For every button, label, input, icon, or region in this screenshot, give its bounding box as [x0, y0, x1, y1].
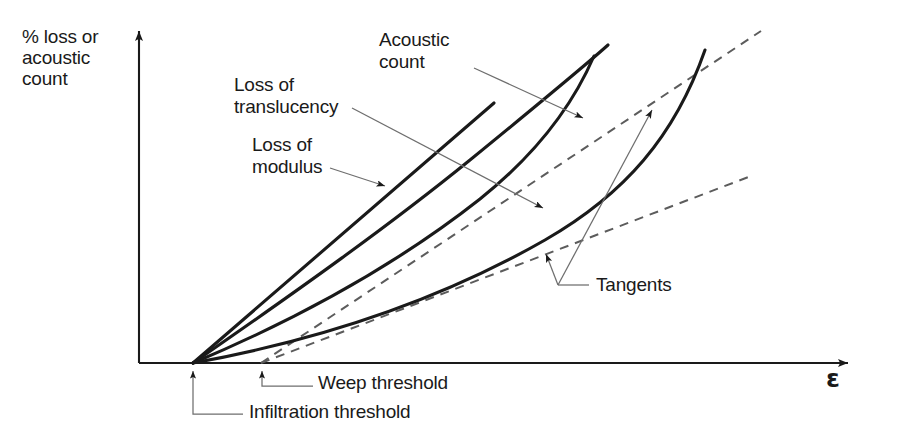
leader-infiltration-threshold: [193, 371, 243, 414]
annotation-loss-of-modulus: Loss of modulus: [252, 134, 322, 178]
leader-tangents-branch-upper: [558, 110, 652, 285]
curve-loss-of-translucency: [193, 103, 494, 363]
leader-loss-of-modulus: [330, 168, 385, 186]
annotation-weep-threshold: Weep threshold: [318, 372, 448, 394]
x-axis-label: ε: [826, 368, 840, 390]
annotation-tangents: Tangents: [596, 274, 672, 296]
annotation-loss-of-translucency: Loss of translucency: [234, 74, 338, 118]
plot-svg: [0, 0, 899, 441]
y-axis-label: % loss or acoustic count: [22, 26, 98, 89]
leader-weep-threshold: [262, 371, 313, 386]
annotation-acoustic-count: Acoustic count: [379, 29, 449, 73]
figure-canvas: % loss or acoustic count ε Acoustic coun…: [0, 0, 899, 441]
annotation-infiltration-threshold: Infiltration threshold: [249, 401, 410, 423]
leader-tangents-branch-lower: [546, 254, 558, 285]
lower-tangent-line: [261, 176, 751, 363]
